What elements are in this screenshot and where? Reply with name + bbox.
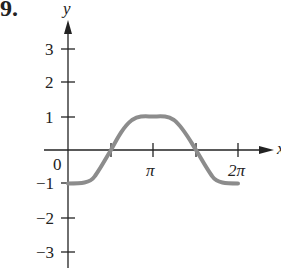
y-tick-label: −1 bbox=[36, 175, 54, 192]
plot-area bbox=[0, 0, 281, 277]
x-axis-label: x bbox=[277, 140, 281, 157]
x-axis-arrow-icon bbox=[259, 146, 274, 154]
y-tick-label: 3 bbox=[45, 41, 54, 58]
y-tick-label: 1 bbox=[45, 109, 54, 126]
origin-label: 0 bbox=[53, 156, 62, 173]
problem-number: 9. bbox=[0, 0, 18, 20]
x-tick-label: π bbox=[146, 162, 155, 179]
y-tick-label: −3 bbox=[36, 244, 54, 261]
y-tick-label: 2 bbox=[45, 74, 54, 91]
y-axis-label: y bbox=[63, 0, 71, 17]
y-axis-arrow-icon bbox=[64, 20, 72, 34]
y-tick-label: −2 bbox=[36, 210, 54, 227]
x-tick-label: 2π bbox=[228, 162, 245, 179]
